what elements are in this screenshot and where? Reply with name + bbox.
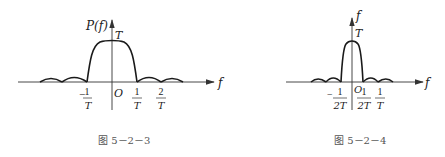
svg-text:1: 1 (135, 86, 140, 97)
peak-label: T (115, 29, 124, 42)
tick-label-neg-1-over-2T: − 1 2T (327, 86, 348, 111)
y-axis-label: f (355, 9, 363, 23)
figure-caption: 图 5－2－3 (98, 135, 150, 146)
svg-text:1: 1 (85, 86, 90, 97)
svg-text:T: T (377, 100, 385, 111)
tick-label-2-over-T: 2 T (156, 86, 166, 111)
y-axis-label: P(f) (85, 19, 108, 33)
svg-text:1: 1 (338, 86, 343, 97)
side-lobe (62, 78, 87, 83)
tick-label-1-over-T: 1 T (375, 86, 385, 111)
origin-label: O (114, 87, 123, 100)
svg-text:T: T (158, 100, 166, 111)
svg-text:T: T (85, 100, 93, 111)
tick-label-neg-1-over-T: − 1 T (79, 86, 93, 111)
figure-5-2-3: P(f) T f O − 1 T 1 T 2 T 图 5－2－3 (18, 19, 225, 146)
side-lobe (40, 79, 62, 83)
svg-text:T: T (134, 100, 142, 111)
svg-text:2T: 2T (332, 100, 347, 111)
x-axis-label: f (424, 76, 432, 90)
side-lobe (137, 78, 161, 83)
figure-canvas: P(f) T f O − 1 T 1 T 2 T 图 5－2－3 (0, 0, 445, 157)
figure-5-2-4: f T f O − 1 2T 1 2T 1 T 图 5－2－4 (286, 9, 432, 146)
figure-caption: 图 5－2－4 (334, 135, 386, 146)
svg-text:2T: 2T (356, 100, 371, 111)
side-lobe (161, 79, 183, 83)
svg-text:2: 2 (159, 86, 164, 97)
peak-label: T (355, 27, 364, 40)
svg-text:1: 1 (378, 86, 383, 97)
svg-text:−: − (327, 89, 333, 100)
side-lobe (363, 78, 378, 82)
side-lobe (326, 78, 341, 82)
svg-text:1: 1 (362, 86, 367, 97)
x-axis-label: f (217, 76, 225, 90)
tick-label-1-over-T: 1 T (132, 86, 142, 111)
